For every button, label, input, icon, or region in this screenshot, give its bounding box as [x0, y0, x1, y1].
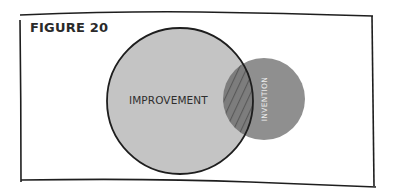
invention-label: INVENTION: [260, 77, 269, 121]
improvement-label: IMPROVEMENT: [129, 94, 229, 106]
frame-left: [20, 20, 21, 182]
frame-top: [20, 12, 373, 16]
frame-bottom: [21, 179, 376, 187]
frame-right: [372, 16, 374, 186]
figure-title: FIGURE 20: [30, 20, 108, 35]
